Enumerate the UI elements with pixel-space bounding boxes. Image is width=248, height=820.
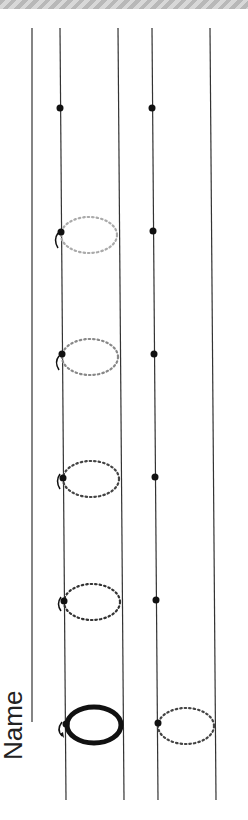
start-dot [153, 597, 160, 604]
trace-letter-o-3 [57, 339, 119, 375]
guide-line-baseline-top [60, 28, 66, 800]
start-dot [152, 474, 159, 481]
start-dot [57, 105, 64, 112]
solid-letter-o [59, 707, 121, 743]
trace-letter-o-4 [56, 217, 118, 253]
stroke-direction-arrow-icon [56, 233, 59, 248]
start-dot [149, 105, 156, 112]
guide-line-midline-top [118, 28, 124, 800]
name-label: Name [0, 690, 28, 760]
stroke-direction-arrow-icon [57, 356, 60, 370]
start-dot [150, 228, 157, 235]
trace-letter-o-2 [58, 461, 120, 497]
stroke-direction-arrow-icon [59, 597, 62, 611]
guide-line-baseline-bottom [152, 28, 158, 800]
trace-letter-o-1 [59, 584, 121, 620]
stroke-direction-arrow-icon [58, 474, 61, 489]
handwriting-worksheet [0, 0, 248, 820]
guide-line-midline-bottom [210, 28, 216, 800]
start-dot [151, 351, 158, 358]
trace-letter-o-bottom [155, 708, 215, 744]
